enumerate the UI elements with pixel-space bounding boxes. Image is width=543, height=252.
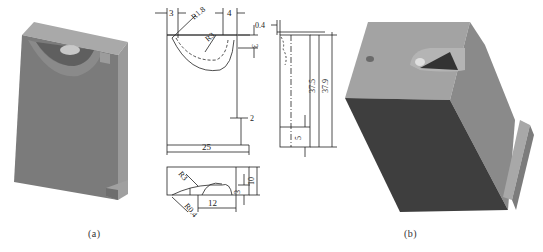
part-3d-view-a [0,0,150,225]
groove-highlight [60,45,80,55]
side-view-drawing: 0.4 37.5 37.9 5 [255,15,340,160]
part-3d-view-b [340,0,543,225]
dim-length: 12 [208,198,217,208]
small-hole [366,56,374,62]
caption-a: (a) [88,228,101,239]
top-view-drawing: R3 R0.4 12 3 10 [150,160,270,220]
dim-right-offset: 4 [227,8,232,18]
front-view-drawing: 3 R1.8 R3 4 3 2 25 [150,0,260,160]
caption-b: (b) [404,228,417,239]
dim-height-total: 37.9 [321,79,330,93]
top-notch [100,52,110,64]
dim-radius-inner: R3 [204,31,217,44]
dim-left-offset: 3 [169,8,174,18]
dim-thickness: 10 [247,177,256,185]
dim-base: 5 [294,136,303,140]
dim-height-inner: 37.5 [308,79,317,93]
dim-radius-small: R0.4 [182,202,199,220]
dim-radius-outer: R1.8 [190,5,208,22]
dim-step: 2 [250,114,254,123]
slot-highlight [415,58,425,66]
dim-width: 25 [202,142,212,152]
dim-depth: 3 [233,190,242,194]
dim-radius: R3 [176,170,189,183]
right-face [118,42,128,200]
dim-lip: 0.4 [255,21,265,30]
